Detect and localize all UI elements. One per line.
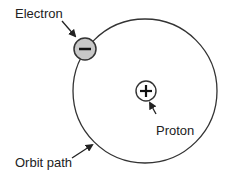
electron-label: Electron [15, 6, 63, 21]
orbit-label: Orbit path [15, 155, 72, 170]
proton-arrow-icon [150, 103, 156, 114]
proton-label: Proton [156, 123, 194, 138]
proton [136, 81, 156, 101]
atom-diagram: Electron Proton Orbit path [0, 0, 233, 179]
electron-arrow-icon [62, 21, 75, 36]
electron [74, 38, 96, 60]
orbit-arrow-icon [72, 145, 92, 158]
